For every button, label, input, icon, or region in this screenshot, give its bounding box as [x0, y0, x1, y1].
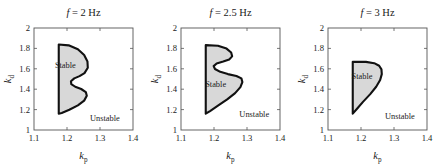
x-axis-label: kp — [373, 150, 382, 164]
panel-title: f = 2 Hz — [66, 7, 101, 18]
y-tick-label: 1.4 — [313, 84, 324, 94]
y-tick-label: 2 — [320, 23, 324, 33]
panel-plot-2: f = 2.5 Hz1.11.21.31.411.21.41.61.82kpkd… — [147, 0, 294, 167]
y-tick-label: 1 — [173, 125, 177, 135]
y-tick-label: 2 — [173, 23, 177, 33]
chart-panel-2: f = 2.5 Hz1.11.21.31.411.21.41.61.82kpkd… — [147, 0, 294, 167]
y-tick-label: 1.8 — [313, 43, 324, 53]
y-tick-label: 1.2 — [313, 105, 324, 115]
y-tick-label: 1 — [320, 125, 324, 135]
y-tick-label: 1.2 — [166, 105, 177, 115]
y-tick-label: 1.8 — [166, 43, 177, 53]
x-axis-label: kp — [226, 150, 235, 164]
y-axis-label: kd — [149, 74, 163, 83]
y-tick-label: 1.8 — [19, 43, 30, 53]
region-annotation-unstable: Unstable — [385, 112, 415, 121]
y-tick-label: 2 — [26, 23, 30, 33]
x-tick-label: 1.3 — [389, 133, 400, 143]
x-tick-label: 1.4 — [275, 133, 286, 143]
y-tick-label: 1 — [26, 125, 30, 135]
x-axis-label: kp — [79, 150, 88, 164]
chart-panel-3: f = 3 Hz1.11.21.31.411.21.41.61.82kpkdSt… — [294, 0, 441, 167]
x-tick-label: 1.4 — [128, 133, 139, 143]
x-tick-label: 1.1 — [29, 133, 40, 143]
y-axis-label: kd — [2, 74, 16, 83]
panel-title: f = 3 Hz — [360, 7, 395, 18]
x-tick-label: 1.4 — [422, 133, 433, 143]
panel-plot-1: f = 2 Hz1.11.21.31.411.21.41.61.82kpkdSt… — [0, 0, 147, 167]
y-tick-label: 1.6 — [313, 64, 324, 74]
region-annotation-stable: Stable — [55, 61, 76, 70]
panel-plot-3: f = 3 Hz1.11.21.31.411.21.41.61.82kpkdSt… — [294, 0, 441, 167]
x-tick-label: 1.3 — [242, 133, 253, 143]
y-tick-label: 1.4 — [166, 84, 177, 94]
x-tick-label: 1.2 — [356, 133, 367, 143]
x-tick-label: 1.1 — [323, 133, 334, 143]
y-axis-label: kd — [296, 74, 310, 83]
region-annotation-stable: Stable — [205, 80, 226, 89]
y-tick-label: 1.6 — [19, 64, 30, 74]
region-annotation-stable: Stable — [352, 72, 373, 81]
y-tick-label: 1.6 — [166, 64, 177, 74]
region-annotation-unstable: Unstable — [90, 114, 120, 123]
x-tick-label: 1.3 — [95, 133, 106, 143]
x-tick-label: 1.2 — [209, 133, 220, 143]
stability-region-figure: f = 2 Hz1.11.21.31.411.21.41.61.82kpkdSt… — [0, 0, 441, 167]
y-tick-label: 1.4 — [19, 84, 30, 94]
region-annotation-unstable: Unstable — [239, 110, 269, 119]
y-tick-label: 1.2 — [19, 105, 30, 115]
panel-title: f = 2.5 Hz — [209, 7, 251, 18]
chart-panel-1: f = 2 Hz1.11.21.31.411.21.41.61.82kpkdSt… — [0, 0, 147, 167]
x-tick-label: 1.1 — [176, 133, 187, 143]
x-tick-label: 1.2 — [62, 133, 73, 143]
